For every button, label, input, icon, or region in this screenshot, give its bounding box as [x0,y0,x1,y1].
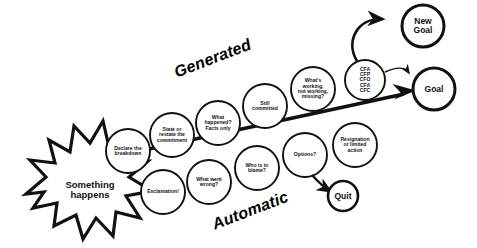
conversations-to-new-goal-connector [352,19,382,61]
node-declare-the-breakdown[interactable] [106,129,150,173]
node-whats-working-not-working-missing[interactable] [291,67,335,111]
node-exclamation[interactable] [141,170,185,214]
node-what-happened-facts-only[interactable] [196,101,240,145]
node-what-went-wrong[interactable] [187,160,231,204]
node-resignation-or-limited-action[interactable] [333,123,377,167]
node-still-committed[interactable] [243,84,287,128]
node-state-or-restate-the-commitment[interactable] [150,113,194,157]
node-who-is-to-blame[interactable] [235,146,279,190]
diagram-canvas: Something happens Declare the breakdown … [0,0,477,248]
conversations-to-goal-connector [385,68,409,73]
options-to-quit-connector [312,175,330,191]
node-conversations[interactable] [345,60,385,100]
node-quit[interactable] [328,181,358,211]
node-new-goal[interactable] [402,5,444,47]
node-options[interactable] [283,133,327,177]
node-goal[interactable] [413,68,455,110]
